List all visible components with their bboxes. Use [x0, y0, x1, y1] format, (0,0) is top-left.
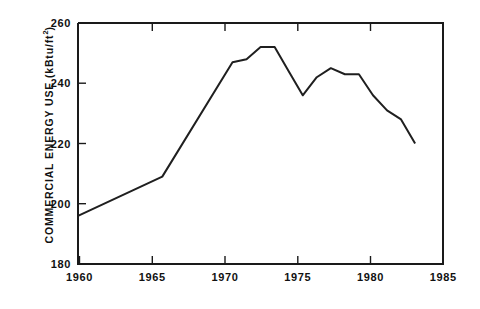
plot-frame: [78, 23, 443, 264]
y-axis-tick-labels: 180 200 220 240 260: [51, 17, 71, 270]
x-axis-tick-labels: 1960 1965 1970 1975 1980 1985: [66, 271, 457, 283]
line-chart-plot: 180 200 220 240 260 1960 1965 1970 1975 …: [0, 0, 480, 309]
x-tick-label-1970: 1970: [212, 271, 239, 283]
y-tick-label-220: 220: [51, 138, 71, 150]
axis-spines: [78, 23, 443, 264]
x-tick-label-1965: 1965: [139, 271, 166, 283]
x-tick-label-1975: 1975: [284, 271, 311, 283]
data-series-line: [78, 47, 415, 216]
x-tick-label-1960: 1960: [66, 271, 93, 283]
y-axis-ticks: [78, 23, 86, 264]
y-tick-label-180: 180: [51, 258, 71, 270]
y-tick-label-240: 240: [51, 77, 71, 89]
y-tick-label-200: 200: [51, 198, 71, 210]
x-tick-label-1980: 1980: [357, 271, 384, 283]
x-tick-label-1985: 1985: [430, 271, 457, 283]
chart-figure: COMMERCIAL ENERGY USE (kBtu/ft2) 180 200…: [0, 0, 480, 309]
x-axis-ticks: [80, 23, 371, 264]
y-tick-label-260: 260: [51, 17, 71, 29]
